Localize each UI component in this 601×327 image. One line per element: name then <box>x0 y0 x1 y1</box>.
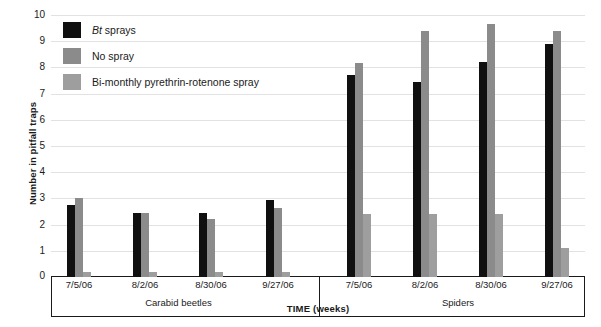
y-axis-tick-2: 2 <box>39 220 45 230</box>
bar-series1-cat7 <box>553 31 561 277</box>
bar-series0-cat6 <box>479 62 487 277</box>
bar-series0-cat5 <box>413 82 421 277</box>
legend-label-1: Bt sprays <box>92 24 136 36</box>
y-axis-tick-9: 9 <box>39 36 45 46</box>
x-axis-tick-label-6: 8/30/06 <box>475 279 507 290</box>
bar-series1-cat6 <box>487 24 495 277</box>
x-axis-tick-label-1: 8/2/06 <box>132 279 158 290</box>
bar-series0-cat0 <box>67 205 75 277</box>
legend-item-1: Bt sprays <box>63 17 259 43</box>
bar-series0-cat4 <box>347 75 355 277</box>
x-axis-tick-label-4: 7/5/06 <box>346 279 372 290</box>
gridline-5: 5 <box>51 146 585 147</box>
legend-item-2: No spray <box>63 43 259 69</box>
bar-series2-cat7 <box>561 248 569 277</box>
gridline-1: 1 <box>51 251 585 252</box>
bar-series0-cat1 <box>133 213 141 277</box>
y-axis-tick-5: 5 <box>39 141 45 151</box>
bar-series1-cat4 <box>355 63 363 277</box>
x-axis-tick-label-3: 9/27/06 <box>262 279 294 290</box>
x-axis-tick-label-2: 8/30/06 <box>195 279 227 290</box>
y-axis-tick-8: 8 <box>39 62 45 72</box>
x-axis-tick-label-0: 7/5/06 <box>66 279 92 290</box>
y-axis-tick-3: 3 <box>39 193 45 203</box>
gridline-6: 6 <box>51 120 585 121</box>
bar-series1-cat2 <box>207 219 215 277</box>
y-axis-title: Number in pitfall traps <box>27 74 38 234</box>
gridline-4: 4 <box>51 172 585 173</box>
gridline-3: 3 <box>51 198 585 199</box>
y-axis-tick-7: 7 <box>39 89 45 99</box>
bar-series1-cat3 <box>274 208 282 277</box>
gridline-10: 10 <box>51 15 585 16</box>
gridline-2: 2 <box>51 225 585 226</box>
x-axis-title: TIME (weeks) <box>51 303 585 314</box>
bar-series0-cat7 <box>545 44 553 277</box>
y-axis-tick-0: 0 <box>39 271 45 281</box>
bar-series2-cat5 <box>429 214 437 277</box>
legend: Bt spraysNo sprayBi-monthly pyrethrin-ro… <box>63 17 259 95</box>
bar-series0-cat3 <box>266 200 274 277</box>
bar-series1-cat5 <box>421 31 429 277</box>
bar-series0-cat2 <box>199 213 207 277</box>
legend-swatch-1 <box>63 22 81 38</box>
bar-series2-cat4 <box>363 214 371 277</box>
bar-series1-cat0 <box>75 198 83 277</box>
legend-label-3: Bi-monthly pyrethrin-rotenone spray <box>92 76 259 88</box>
y-axis-tick-1: 1 <box>39 246 45 256</box>
bar-series2-cat6 <box>495 214 503 277</box>
x-axis-tick-label-7: 9/27/06 <box>541 279 573 290</box>
legend-item-3: Bi-monthly pyrethrin-rotenone spray <box>63 69 259 95</box>
y-axis-tick-6: 6 <box>39 115 45 125</box>
legend-swatch-3 <box>63 74 81 90</box>
legend-swatch-2 <box>63 48 81 64</box>
bar-series1-cat1 <box>141 213 149 277</box>
legend-label-2: No spray <box>92 50 134 62</box>
y-axis-tick-10: 10 <box>34 10 45 20</box>
bar-chart: Number in pitfall traps 109876543210 7/5… <box>0 0 601 327</box>
x-axis-tick-label-5: 8/2/06 <box>412 279 438 290</box>
y-axis-tick-4: 4 <box>39 167 45 177</box>
